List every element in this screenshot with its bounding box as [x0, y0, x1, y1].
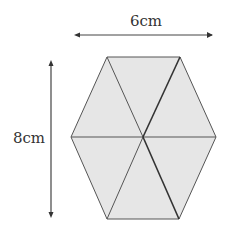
width-label: 6cm: [130, 12, 162, 30]
arrowhead-down: [49, 212, 54, 218]
arrowhead-up: [49, 60, 54, 66]
arrowhead-left: [74, 33, 80, 38]
hexagon-diagram: 6cm 8cm: [0, 0, 229, 231]
height-label: 8cm: [13, 129, 45, 147]
